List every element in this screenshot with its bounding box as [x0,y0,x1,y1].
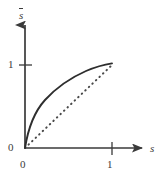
x-axis-label: s [150,143,154,154]
y-tick-label-0: 0 [8,142,14,153]
x-tick-label-1: 1 [107,159,113,170]
figure-container: s s 1 0 0 1 [0,0,164,180]
x-tick-label-0: 0 [20,159,26,170]
axes-group [25,25,142,148]
data-series-group [25,63,112,148]
diagonal-reference-line [25,65,112,148]
y-axis-label-text: s [19,9,23,21]
y-axis-label: s [19,8,23,21]
plot-canvas [0,0,164,180]
y-tick-label-1: 1 [8,59,14,70]
overbar-accent [19,8,23,9]
